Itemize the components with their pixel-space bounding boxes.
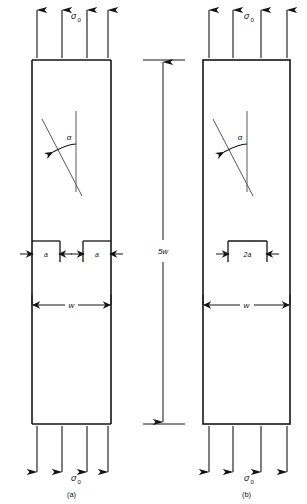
angle-arc-a [53,144,76,152]
sigma-subscript: 0 [251,17,255,23]
plate-outline-a [32,60,111,424]
crack-label-2a: 2a [243,251,252,258]
height-dimension-label: 5w [158,247,169,256]
figure-canvas: σ 0 a a [0,0,307,504]
load-label-top-b: σ 0 [244,11,255,23]
sigma-symbol: σ [71,473,77,483]
load-label-top-a: σ 0 [71,11,82,23]
diagram-svg: σ 0 a a [0,0,307,504]
sigma-subscript: 0 [78,17,82,23]
sigma-symbol: σ [71,11,77,21]
crack-angle-detail-b [213,111,253,196]
sigma-subscript: 0 [251,479,255,485]
sigma-subscript: 0 [78,479,82,485]
crack-angle-detail-a [42,111,82,196]
angle-label-b: α [238,133,243,142]
height-dimension-5w [143,60,185,424]
panel-caption-b: (b) [242,490,252,499]
angle-arc-b [224,144,247,152]
crack-label-a-left: a [44,251,48,258]
bottom-load-arrows-a [37,426,108,472]
crack-label-a-right: a [95,251,99,258]
panel-caption-a: (a) [67,490,77,499]
width-label-b: w [244,301,251,310]
sigma-symbol: σ [244,473,250,483]
angle-label-a: α [67,133,72,142]
sigma-symbol: σ [244,11,250,21]
bottom-load-arrows-b [209,426,287,472]
panel-a: σ 0 a a [20,10,123,499]
load-label-bottom-b: σ 0 [244,473,255,485]
width-label-a: w [69,301,76,310]
load-label-bottom-a: σ 0 [71,473,82,485]
panel-b: σ 0 2a α w [203,10,290,499]
